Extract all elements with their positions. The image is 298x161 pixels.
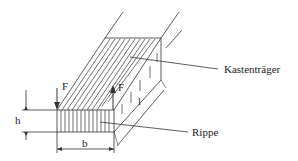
front-face [57, 110, 114, 132]
top-left-edge [57, 38, 105, 110]
continuation-line [161, 12, 179, 38]
leader-rib [100, 122, 188, 132]
box-girder-label: Kastenträger [224, 64, 280, 75]
leader-box-girder [130, 57, 218, 69]
width-label: b [82, 138, 88, 149]
force-label-right: F [118, 82, 124, 93]
force-label-left: F [62, 81, 68, 92]
continuation-line [166, 30, 182, 48]
rib-label: Rippe [192, 127, 218, 138]
length-label: l [138, 96, 141, 107]
box-girder-drawing [0, 0, 298, 161]
continuation-line [105, 12, 123, 38]
height-label: h [15, 115, 21, 126]
front-ribs [61, 110, 109, 132]
